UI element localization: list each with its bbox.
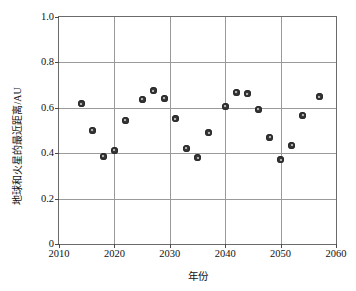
data-point	[288, 142, 295, 149]
data-point	[139, 96, 146, 103]
gridline-vertical	[281, 17, 282, 244]
y-tick-label: 0.4	[41, 148, 54, 159]
data-point	[150, 87, 157, 94]
y-tick-mark	[55, 108, 59, 109]
data-point	[172, 115, 179, 122]
gridline-horizontal	[59, 108, 336, 109]
x-tick-label: 2040	[215, 249, 236, 260]
data-point	[122, 117, 129, 124]
y-tick-label: 0.2	[41, 193, 54, 204]
data-point	[111, 147, 118, 154]
data-point	[233, 89, 240, 96]
gridline-horizontal	[59, 199, 336, 200]
y-tick-label: 0.8	[41, 57, 54, 68]
figure-container: 地球和火星的最近距离/AU 00.20.40.60.81.0 201020202…	[0, 0, 356, 291]
data-point	[78, 100, 85, 107]
gridline-horizontal	[59, 62, 336, 63]
y-tick-mark	[55, 153, 59, 154]
x-tick-label: 2010	[49, 249, 70, 260]
y-tick-mark	[55, 17, 59, 18]
data-point	[205, 129, 212, 136]
data-point	[161, 95, 168, 102]
gridline-vertical	[225, 17, 226, 244]
data-point	[222, 103, 229, 110]
data-point	[266, 134, 273, 141]
x-tick-label: 2020	[104, 249, 125, 260]
data-point	[316, 93, 323, 100]
data-point	[277, 156, 284, 163]
x-tick-label: 2030	[159, 249, 180, 260]
x-tick-label: 2060	[326, 249, 347, 260]
gridline-vertical	[114, 17, 115, 244]
data-point	[194, 154, 201, 161]
gridline-vertical	[170, 17, 171, 244]
data-point	[100, 153, 107, 160]
y-tick-mark	[55, 62, 59, 63]
y-tick-label: 1.0	[41, 12, 54, 23]
data-point	[89, 127, 96, 134]
y-tick-mark	[55, 199, 59, 200]
y-tick-label: 0.6	[41, 103, 54, 114]
data-point	[255, 106, 262, 113]
y-axis-title: 地球和火星的最近距离/AU	[9, 87, 24, 204]
data-point	[299, 112, 306, 119]
x-tick-label: 2050	[270, 249, 291, 260]
data-point	[183, 145, 190, 152]
x-axis-title: 年份	[58, 268, 337, 283]
data-point	[244, 90, 251, 97]
plot-area: 00.20.40.60.81.0 20102020203020402050206…	[58, 16, 337, 245]
